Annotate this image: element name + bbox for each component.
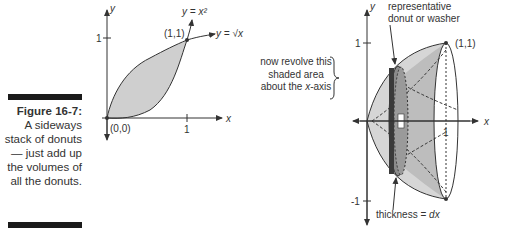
washer-pointer-bottom [393, 178, 396, 210]
point-label: (1,1) [455, 38, 476, 49]
y-tick-label: 1 [96, 33, 102, 44]
left-graph: y x 1 1 (0,0) (1,1) y = √x y = x² [96, 3, 244, 140]
washer-pointer-top [390, 25, 395, 64]
washer-label-1: representative [388, 1, 452, 12]
shaded-region [107, 40, 187, 118]
curve-x-squared [187, 20, 192, 40]
y-axis-label: y [369, 1, 376, 12]
curve-sqrt-label: y = √x [215, 28, 244, 39]
x-tick-label: 1 [184, 124, 190, 135]
right-graph: y x 1 -1 1 (1,1) representative donut or… [351, 1, 490, 225]
revolve-note: now revolve this shaded area about the x… [251, 56, 341, 94]
x-tick-label: 1 [443, 127, 449, 138]
diagram-canvas: y x 1 1 (0,0) (1,1) y = √x y = x² y x [0, 0, 510, 241]
y-tick-bottom: -1 [351, 196, 360, 207]
y-axis-label: y [109, 3, 116, 14]
note-line-1: now revolve this [251, 56, 341, 69]
x-axis-label: x [225, 113, 232, 124]
x-axis-label: x [483, 116, 490, 127]
y-tick-top: 1 [355, 38, 361, 49]
note-line-2: shaded area [251, 69, 341, 82]
note-line-3: about the x-axis [251, 81, 341, 94]
curve-sqrt-x [187, 34, 215, 40]
curve-xsq-label: y = x² [181, 6, 207, 17]
washer-label-2: donut or washer [388, 13, 460, 24]
point-label: (1,1) [164, 28, 185, 39]
thickness-label: thickness = dx [376, 209, 441, 220]
origin-label: (0,0) [110, 123, 131, 134]
